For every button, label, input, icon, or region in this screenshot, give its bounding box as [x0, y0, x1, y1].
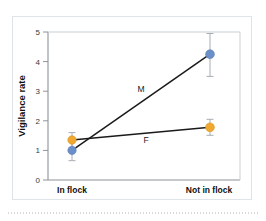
y-tick-label-1: 1	[36, 146, 41, 155]
y-tick-label-2: 2	[36, 117, 41, 126]
figure-container: 0 1 2 3 4 5 Vigilance rate In flock Not …	[0, 0, 266, 221]
y-tick-label-4: 4	[36, 58, 41, 67]
vigilance-rate-line-chart: 0 1 2 3 4 5 Vigilance rate In flock Not …	[0, 0, 266, 221]
y-axis-ticks	[43, 32, 48, 180]
series-annotation-male: M	[137, 84, 144, 94]
data-point-male-in-flock	[68, 146, 76, 154]
x-category-label-not-in-flock: Not in flock	[186, 185, 233, 195]
x-category-label-in-flock: In flock	[57, 185, 87, 195]
y-axis-title: Vigilance rate	[16, 75, 27, 137]
series-line-male	[72, 54, 210, 150]
data-point-male-not-in-flock	[206, 50, 215, 59]
data-point-female-in-flock	[68, 136, 76, 144]
y-tick-label-5: 5	[36, 28, 41, 37]
y-tick-label-3: 3	[36, 87, 41, 96]
y-axis-tick-labels: 0 1 2 3 4 5	[36, 28, 41, 185]
data-point-female-not-in-flock	[206, 123, 215, 132]
series-annotation-female: F	[143, 135, 148, 145]
series-line-female	[72, 127, 210, 140]
y-tick-label-0: 0	[36, 176, 41, 185]
series-lines	[72, 54, 210, 150]
bottom-dotted-divider	[8, 212, 258, 214]
